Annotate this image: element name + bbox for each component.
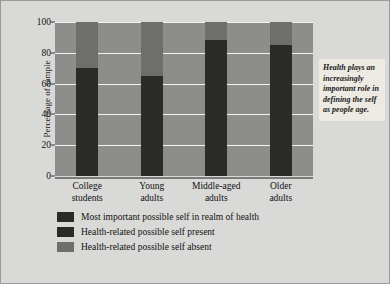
legend-label: Health-related possible self absent: [81, 242, 212, 252]
x-axis-category-labels: CollegestudentsYoungadultsMiddle-agedadu…: [55, 181, 313, 209]
category-label-line2: adults: [120, 193, 185, 205]
y-axis-tick-label: 20: [27, 140, 51, 150]
bar: [141, 22, 163, 176]
legend-swatch: [57, 227, 74, 237]
y-axis-tick-labels: 020406080100: [23, 22, 51, 176]
bar-segment-present: [270, 45, 292, 176]
legend-item: Health-related possible self absent: [57, 241, 317, 253]
category-label-line1: Young: [120, 181, 185, 193]
bar-segment-absent: [141, 22, 163, 76]
category-label-line1: Middle-aged: [184, 181, 249, 193]
y-axis-tick-label: 80: [27, 48, 51, 58]
category-label-line2: students: [55, 193, 120, 205]
bar-segment-absent: [205, 22, 227, 40]
legend-swatch: [57, 212, 74, 222]
bar-segment-absent: [270, 22, 292, 45]
category-label-line1: College: [55, 181, 120, 193]
category-label-line2: adults: [249, 193, 314, 205]
category-label-line1: Older: [249, 181, 314, 193]
x-axis-category-label: Middle-agedadults: [184, 181, 249, 204]
legend-item: Most important possible self in realm of…: [57, 211, 317, 223]
callout-note: Health plays an increasingly important r…: [319, 59, 385, 121]
x-axis-category-label: Collegestudents: [55, 181, 120, 204]
y-axis-tick-label: 40: [27, 109, 51, 119]
x-axis-line: [55, 177, 313, 179]
legend-item: Health-related possible self present: [57, 226, 317, 238]
y-axis-tick-label: 100: [27, 17, 51, 27]
legend-swatch: [57, 242, 74, 252]
bar-segment-present: [205, 40, 227, 176]
x-axis-category-label: Youngadults: [120, 181, 185, 204]
bar: [76, 22, 98, 176]
x-axis-category-label: Olderadults: [249, 181, 314, 204]
chart-figure: Percentage of sample 020406080100 Colleg…: [0, 0, 390, 284]
bar-segment-absent: [76, 22, 98, 68]
bar: [205, 22, 227, 176]
category-label-line2: adults: [184, 193, 249, 205]
y-axis-tick-label: 0: [27, 171, 51, 181]
bar-segment-present: [76, 68, 98, 176]
bar-segment-present: [141, 76, 163, 176]
legend-label: Most important possible self in realm of…: [81, 212, 259, 222]
chart-legend: Most important possible self in realm of…: [57, 211, 317, 256]
legend-label: Health-related possible self present: [81, 227, 215, 237]
y-axis-tick-label: 60: [27, 79, 51, 89]
bar: [270, 22, 292, 176]
plot-area: [55, 22, 313, 176]
